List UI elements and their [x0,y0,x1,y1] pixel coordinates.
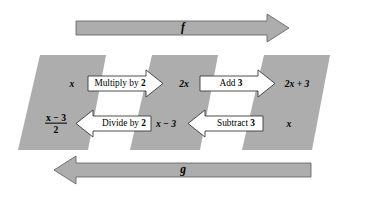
diagram-canvas [0,0,369,198]
parallelogram-stage-3 [242,55,330,150]
flow-arrow-f [76,14,289,42]
function-machine-diagram: f g x 2x 2x + 3 Multiply by 2 Add 3 x − … [0,0,369,198]
flow-arrow-g-shape [54,156,311,184]
flow-arrow-f-shape [76,14,289,42]
flow-arrow-g [54,156,311,184]
parallelogram-group [18,55,330,150]
